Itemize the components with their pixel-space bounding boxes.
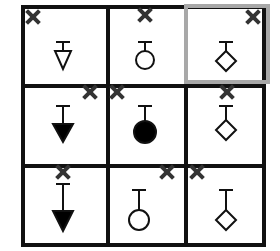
circle-outline-icon	[129, 190, 149, 230]
cell-r2-c1[interactable]	[106, 164, 184, 243]
cell-r2-c0[interactable]	[25, 164, 106, 243]
triangle-filled-icon	[53, 106, 73, 142]
cell-r0-c2[interactable]	[188, 8, 266, 80]
x-mark-icon	[112, 87, 122, 97]
diamond-outline-icon	[216, 42, 236, 71]
cell-r0-c0[interactable]	[25, 9, 106, 80]
cell-r2-c2[interactable]	[188, 164, 266, 243]
x-mark-icon	[28, 12, 38, 22]
x-mark-icon	[58, 167, 68, 177]
diamond-outline-icon	[216, 106, 236, 140]
diamond-outline-icon	[216, 190, 236, 230]
circle-filled-icon	[134, 106, 156, 143]
x-mark-icon	[248, 12, 258, 22]
x-mark-icon	[162, 167, 172, 177]
x-mark-icon	[192, 167, 202, 177]
triangle-filled-icon	[53, 184, 73, 231]
x-mark-icon	[222, 87, 232, 97]
cell-r1-c1[interactable]	[106, 84, 184, 160]
cell-r0-c1[interactable]	[106, 9, 184, 80]
x-mark-icon	[85, 87, 95, 97]
cell-r1-c2[interactable]	[188, 84, 266, 160]
circle-outline-icon	[136, 42, 154, 69]
cell-r1-c0[interactable]	[25, 84, 106, 160]
triangle-outline-icon	[55, 42, 71, 69]
x-mark-icon	[140, 10, 150, 20]
